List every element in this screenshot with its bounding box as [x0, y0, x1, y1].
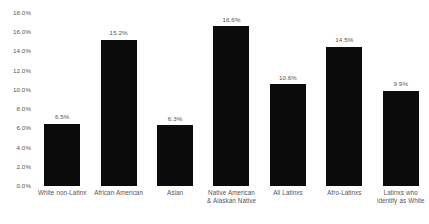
bar-chart: 18.0%16.0%14.0%12.0%10.0%8.0%6.0%4.0%2.0…: [0, 0, 429, 224]
bar-value-label: 10.6%: [279, 75, 297, 81]
bar: [270, 84, 306, 186]
x-axis-label-line: Latinxs who: [364, 189, 429, 197]
x-axis-label-line: & Alaskan Native: [194, 197, 268, 205]
y-axis-tick: 6.0%: [16, 125, 31, 131]
y-axis-tick: 10.0%: [13, 87, 31, 93]
bar: [157, 125, 193, 186]
bar-group: 6.3%: [147, 0, 203, 186]
bar-value-label: 15.2%: [110, 30, 128, 36]
x-axis-label: Latinxs whoidentify as White: [364, 189, 429, 206]
bar-value-label: 6.5%: [55, 114, 70, 120]
bar-value-label: 9.9%: [394, 81, 409, 87]
y-axis-tick: 4.0%: [16, 144, 31, 150]
bar: [101, 40, 137, 186]
plot-area: 6.5%15.2%6.3%16.6%10.6%14.5%9.9%: [34, 0, 429, 186]
bar-group: 9.9%: [373, 0, 429, 186]
bar-group: 10.6%: [260, 0, 316, 186]
bar-group: 6.5%: [34, 0, 90, 186]
x-axis: White non-LatinxAfrican AmericanAsianNat…: [34, 189, 429, 224]
y-axis-tick: 8.0%: [16, 106, 31, 112]
bar: [326, 47, 362, 186]
bar-group: 15.2%: [90, 0, 146, 186]
y-axis-tick: 12.0%: [13, 68, 31, 74]
bar: [213, 26, 249, 186]
bar-value-label: 6.3%: [168, 116, 183, 122]
bar-group: 14.5%: [316, 0, 372, 186]
bar-value-label: 14.5%: [335, 37, 353, 43]
y-axis-tick: 18.0%: [13, 10, 31, 16]
bar: [44, 124, 80, 186]
bar-group: 16.6%: [203, 0, 259, 186]
y-axis-tick: 2.0%: [16, 164, 31, 170]
bar: [383, 91, 419, 186]
y-axis-tick: 16.0%: [13, 29, 31, 35]
bar-value-label: 16.6%: [222, 17, 240, 23]
x-axis-label-line: identify as White: [364, 197, 429, 205]
y-axis-tick: 14.0%: [13, 48, 31, 54]
